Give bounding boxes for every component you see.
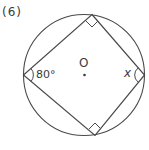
right-angle-mark-bottom <box>89 123 101 129</box>
right-angle-mark-top <box>86 21 98 27</box>
angle-arc-right <box>135 68 138 82</box>
unknown-angle-label: x <box>124 67 131 79</box>
angle-arc-left <box>31 69 33 82</box>
geometry-figure: (6) O 80° x <box>0 0 149 150</box>
center-label: O <box>79 57 88 69</box>
given-angle-label: 80° <box>36 69 56 80</box>
problem-number: (6) <box>2 6 22 18</box>
center-point <box>83 74 86 77</box>
